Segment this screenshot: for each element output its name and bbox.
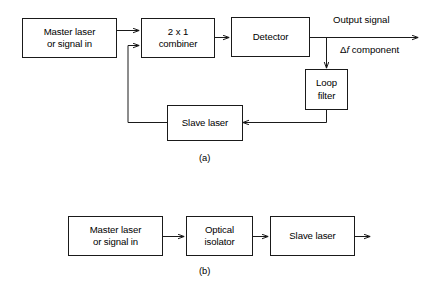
- block-loop-filter-line2: filter: [318, 90, 336, 102]
- label-delta-f-component: Δf component: [340, 44, 399, 56]
- block-master-laser-a-line2: or signal in: [47, 38, 92, 50]
- block-optical-isolator: Optical isolator: [186, 216, 253, 256]
- block-detector: Detector: [231, 17, 310, 57]
- block-combiner-line1: 2 x 1: [168, 26, 188, 38]
- caption-panel-a: (a): [199, 152, 210, 163]
- block-master-laser-b-line1: Master laser: [90, 224, 142, 236]
- block-master-laser-b: Master laser or signal in: [68, 216, 163, 256]
- block-detector-line1: Detector: [253, 31, 288, 43]
- label-delta-f-suffix: component: [349, 44, 399, 55]
- block-loop-filter: Loop filter: [305, 69, 348, 110]
- block-combiner: 2 x 1 combiner: [141, 18, 215, 58]
- caption-panel-b: (b): [199, 265, 210, 276]
- block-optical-isolator-line1: Optical: [205, 224, 234, 236]
- block-optical-isolator-line2: isolator: [204, 236, 234, 248]
- block-master-laser-b-line2: or signal in: [93, 236, 138, 248]
- block-slave-laser-b-line1: Slave laser: [289, 230, 335, 242]
- label-output-signal: Output signal: [333, 14, 390, 26]
- block-master-laser-a: Master laser or signal in: [22, 18, 117, 58]
- block-combiner-line2: combiner: [159, 38, 198, 50]
- block-slave-laser-a-line1: Slave laser: [182, 117, 228, 129]
- wire-loopfilter-down: [246, 110, 327, 123]
- block-slave-laser-a: Slave laser: [167, 105, 243, 141]
- block-slave-laser-b: Slave laser: [270, 216, 355, 256]
- block-master-laser-a-line1: Master laser: [44, 26, 96, 38]
- figure-root: Master laser or signal in 2 x 1 combiner…: [0, 0, 429, 292]
- block-loop-filter-line1: Loop: [316, 77, 337, 89]
